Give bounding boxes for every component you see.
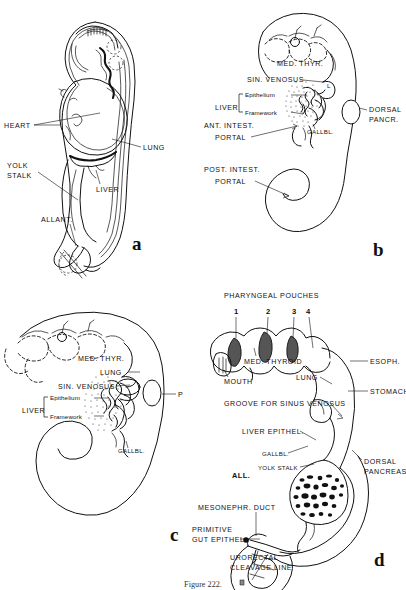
panel-d-drawing bbox=[210, 328, 368, 590]
label-med-thyroid: MED. THYR. bbox=[277, 60, 323, 68]
label-pouch-4: 4 bbox=[306, 307, 311, 316]
label-med-thyroid-c: MED. THYR. bbox=[78, 355, 124, 363]
panel-d: PHARYNGEAL POUCHES 1 2 3 4 MED. THYROID … bbox=[190, 288, 406, 580]
label-pancreas-c: P bbox=[178, 391, 183, 399]
label-liver-c: LIVER bbox=[22, 407, 45, 415]
label-gallbladder-d: GALLBL. bbox=[262, 450, 289, 457]
label-liver-epithelium: Epithelium bbox=[245, 91, 275, 98]
panel-b-labels: MED. THYR. SIN. VENOSUS LIVER Epithelium… bbox=[204, 60, 401, 260]
label-primitive-gut-epithel-line1: PRIMITIVE bbox=[192, 526, 232, 534]
label-liver-framework: Framework bbox=[245, 109, 278, 116]
label-yolk-stalk-line2: STALK bbox=[7, 172, 32, 180]
label-dorsal-pancreas-line1-d: DORSAL bbox=[364, 458, 396, 466]
label-liver-epithelium-c: Epithelium bbox=[50, 394, 80, 401]
label-urorectal-cleavage-line1: URORECTAL bbox=[230, 554, 278, 562]
panel-a-drawing bbox=[54, 22, 135, 278]
label-mesonephric-duct-d: MESONEPHR. DUCT bbox=[198, 504, 276, 512]
label-heart: HEART bbox=[4, 122, 31, 130]
label-dorsal-pancreas-line2: PANCR. bbox=[369, 116, 399, 124]
label-liver-epithel-d: LIVER EPITHEL. bbox=[242, 428, 304, 436]
label-liver: LIVER bbox=[215, 104, 238, 112]
label-pouch-3: 3 bbox=[292, 307, 296, 316]
label-liver: LIVER bbox=[96, 186, 119, 194]
label-groove-sinus-venosus-d: GROOVE FOR SINUS VENOSUS bbox=[224, 400, 346, 408]
liver-epithel-blobs bbox=[293, 474, 344, 517]
label-primitive-gut-epithel-line2: GUT EPITHEL. bbox=[192, 536, 247, 544]
panel-letter-d: d bbox=[374, 549, 385, 570]
panel-letter-c: c bbox=[170, 524, 178, 545]
label-pharyngeal-pouches: PHARYNGEAL POUCHES bbox=[224, 292, 319, 300]
label-stomach-d: STOMACH bbox=[370, 388, 406, 396]
label-ant-intest-portal-line1: ANT. INTEST. bbox=[204, 122, 254, 130]
label-med-thyroid-d: MED. THYROID bbox=[244, 358, 302, 366]
label-liver-framework-c: Framework bbox=[50, 413, 83, 420]
label-gallbladder: GALLBL. bbox=[307, 128, 334, 135]
label-mouth-d: MOUTH bbox=[224, 378, 253, 386]
label-post-intest-portal-line2: PORTAL bbox=[215, 178, 246, 186]
panel-c: MED. THYR. LUNG SIN. VENOSUS LIVER Epith… bbox=[0, 285, 203, 570]
label-pouch-1: 1 bbox=[234, 307, 239, 316]
panel-a-labels: HEART YOLK STALK ALLANT. LUNG LIVER a bbox=[4, 113, 165, 254]
label-sinus-venosus: SIN. VENOSUS bbox=[247, 76, 304, 84]
label-allantois: ALLANT. bbox=[41, 216, 73, 224]
panel-c-labels: MED. THYR. LUNG SIN. VENOSUS LIVER Epith… bbox=[22, 355, 183, 545]
label-esophagus-d: ESOPH. bbox=[370, 358, 400, 366]
label-dorsal-pancreas-line1: DORSAL bbox=[369, 106, 401, 114]
panel-b: MED. THYR. SIN. VENOSUS LIVER Epithelium… bbox=[203, 0, 406, 293]
label-allantois-d: ALL. bbox=[232, 471, 250, 480]
label-dorsal-pancreas-line2-d: PANCREAS bbox=[364, 468, 406, 476]
label-post-intest-portal-line1: POST. INTEST. bbox=[204, 166, 260, 174]
panel-letter-a: a bbox=[132, 233, 142, 254]
liver-framework-stipple bbox=[285, 79, 318, 126]
label-gallbladder-c: GALLBL. bbox=[118, 447, 145, 454]
label-yolk-stalk-d: YOLK STALK bbox=[258, 464, 298, 471]
label-yolk-stalk-line1: YOLK bbox=[7, 162, 28, 170]
panel-a: HEART YOLK STALK ALLANT. LUNG LIVER a bbox=[0, 0, 203, 293]
label-lung-d: LUNG bbox=[296, 374, 318, 382]
label-pouch-2: 2 bbox=[266, 307, 270, 316]
label-lung-bud: L bbox=[327, 82, 331, 89]
figure-caption: Figure 222. bbox=[0, 580, 406, 590]
label-sinus-venosus-c: SIN. VENOSUS bbox=[58, 383, 115, 391]
panel-letter-b: b bbox=[373, 239, 384, 260]
panel-d-labels: PHARYNGEAL POUCHES 1 2 3 4 MED. THYROID … bbox=[192, 292, 406, 580]
label-lung-c: LUNG bbox=[100, 369, 122, 377]
label-lung: LUNG bbox=[143, 144, 165, 152]
label-ant-intest-portal-line2: PORTAL bbox=[215, 134, 246, 142]
panel-b-drawing bbox=[259, 13, 361, 231]
